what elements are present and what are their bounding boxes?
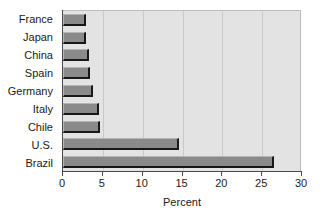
x-axis-tick-mark	[221, 172, 222, 176]
y-axis-category-labels: France Japan China Spain Germany Italy C…	[0, 10, 57, 172]
bar	[63, 14, 86, 26]
x-axis-tick-mark	[102, 172, 103, 176]
x-axis-tick-label: 10	[136, 177, 148, 189]
bar-row	[63, 47, 300, 65]
x-axis-tick-mark	[182, 172, 183, 176]
y-axis-tick-label: Brazil	[0, 154, 57, 172]
bar-row	[63, 64, 300, 82]
x-axis-tick-mark	[261, 172, 262, 176]
x-axis-tick-mark	[301, 172, 302, 176]
y-axis-tick-label: Germany	[0, 82, 57, 100]
y-axis-tick-label: France	[0, 10, 57, 28]
bar	[63, 121, 100, 133]
bar	[63, 156, 274, 168]
bar-row	[63, 135, 300, 153]
plot-area	[62, 10, 301, 172]
x-axis-tick-label: 0	[59, 177, 65, 189]
bar-chart: France Japan China Spain Germany Italy C…	[0, 0, 322, 219]
x-axis-tick-label: 25	[255, 177, 267, 189]
bar-row	[63, 11, 300, 29]
bar	[63, 138, 179, 150]
bar-row	[63, 100, 300, 118]
x-axis-tick-label: 20	[215, 177, 227, 189]
x-axis-tick-label: 15	[175, 177, 187, 189]
x-axis-tick-label: 30	[295, 177, 307, 189]
bar	[63, 32, 86, 44]
x-axis-tick-label: 5	[99, 177, 105, 189]
y-axis-tick-label: Italy	[0, 100, 57, 118]
bar	[63, 49, 89, 61]
bar-series	[63, 11, 300, 171]
bar-row	[63, 82, 300, 100]
bar-row	[63, 29, 300, 47]
y-axis-tick-label: U.S.	[0, 136, 57, 154]
bar-row	[63, 153, 300, 171]
x-axis-tick-mark	[62, 172, 63, 176]
y-axis-tick-label: Japan	[0, 28, 57, 46]
bar	[63, 67, 90, 79]
bar	[63, 85, 93, 97]
y-axis-tick-label: China	[0, 46, 57, 64]
y-axis-tick-label: Spain	[0, 64, 57, 82]
bar-row	[63, 118, 300, 136]
y-axis-tick-label: Chile	[0, 118, 57, 136]
bar	[63, 103, 99, 115]
x-axis-title: Percent	[62, 196, 302, 208]
x-axis-tick-mark	[142, 172, 143, 176]
y-axis-line	[62, 10, 63, 172]
